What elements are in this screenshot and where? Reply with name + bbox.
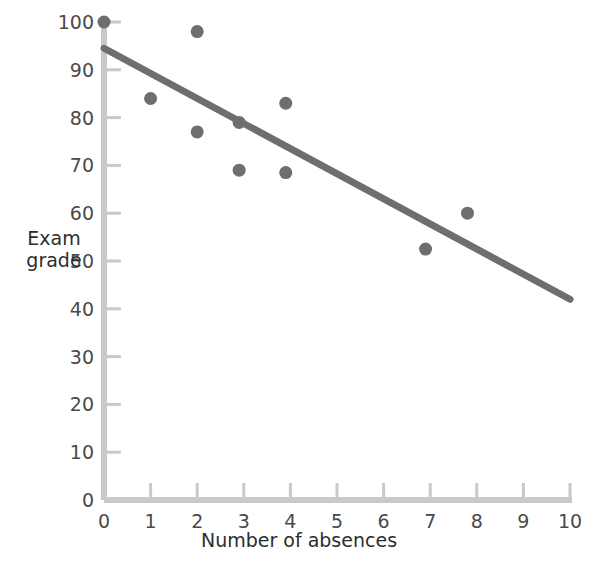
plot-area [0, 0, 598, 564]
y-tick-label: 0 [82, 491, 94, 510]
y-tick-label: 80 [70, 108, 94, 127]
trend-line [104, 48, 570, 299]
x-axis-title: Number of absences [0, 530, 598, 552]
x-axis-ticks [151, 483, 570, 497]
y-tick-label: 90 [70, 60, 94, 79]
y-axis-ticks [107, 22, 121, 452]
data-point [191, 125, 204, 138]
y-tick-label: 20 [70, 395, 94, 414]
data-point [279, 166, 292, 179]
x-tick-label: 10 [558, 512, 582, 531]
x-tick-label: 0 [98, 512, 110, 531]
x-tick-label: 1 [145, 512, 157, 531]
data-point [279, 97, 292, 110]
x-tick-label: 8 [471, 512, 483, 531]
data-point [419, 243, 432, 256]
y-tick-label: 30 [70, 347, 94, 366]
data-point [144, 92, 157, 105]
y-tick-label: 60 [70, 204, 94, 223]
y-tick-label: 100 [58, 13, 94, 32]
x-tick-label: 9 [517, 512, 529, 531]
y-axis-title-line: Exam [8, 228, 100, 250]
y-tick-label: 40 [70, 299, 94, 318]
data-point [233, 164, 246, 177]
y-axis-title: Examgrade [8, 228, 100, 272]
data-point [233, 116, 246, 129]
y-tick-label: 70 [70, 156, 94, 175]
data-point [98, 16, 111, 29]
data-point [191, 25, 204, 38]
data-point [461, 207, 474, 220]
scatter-chart: 0102030405060708090100 012345678910 Exam… [0, 0, 598, 564]
y-axis-title-line: grade [8, 250, 100, 272]
x-tick-label: 7 [424, 512, 436, 531]
y-tick-label: 10 [70, 443, 94, 462]
